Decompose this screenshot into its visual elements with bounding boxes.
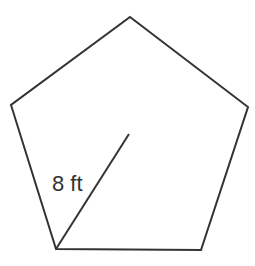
pentagon-shape [11,17,248,250]
pentagon-diagram: 8 ft [0,0,255,266]
radius-label: 8 ft [52,171,83,196]
diagram-svg: 8 ft [0,0,255,266]
